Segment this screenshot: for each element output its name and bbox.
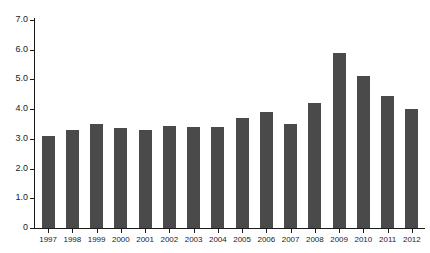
bar[interactable]: [333, 53, 346, 228]
x-tick-mark: [315, 229, 316, 233]
y-tick-mark: [30, 139, 35, 140]
x-tick-label: 2011: [376, 236, 400, 244]
y-tick-mark: [30, 198, 35, 199]
x-tick-label: 2012: [400, 236, 424, 244]
y-tick-label: 6.0: [2, 45, 28, 54]
x-tick-label: 2001: [133, 236, 157, 244]
x-tick-mark: [242, 229, 243, 233]
x-tick-mark: [218, 229, 219, 233]
x-tick-label: 2008: [303, 236, 327, 244]
bar[interactable]: [381, 96, 394, 228]
bar[interactable]: [405, 109, 418, 228]
x-tick-label: 1997: [36, 236, 60, 244]
x-tick-mark: [97, 229, 98, 233]
x-tick-mark: [72, 229, 73, 233]
y-tick-mark: [30, 169, 35, 170]
x-tick-label: 2002: [157, 236, 181, 244]
x-tick-label: 2003: [182, 236, 206, 244]
x-tick-mark: [266, 229, 267, 233]
x-axis-line: [34, 228, 425, 229]
bar[interactable]: [308, 103, 321, 228]
x-tick-mark: [412, 229, 413, 233]
bar[interactable]: [90, 124, 103, 228]
bar[interactable]: [211, 127, 224, 228]
x-tick-mark: [291, 229, 292, 233]
y-tick-label: 7.0: [2, 15, 28, 24]
x-tick-mark: [363, 229, 364, 233]
y-tick-mark: [30, 228, 35, 229]
x-tick-mark: [169, 229, 170, 233]
x-tick-label: 2000: [109, 236, 133, 244]
bar[interactable]: [42, 136, 55, 228]
bar[interactable]: [236, 118, 249, 228]
y-tick-mark: [30, 50, 35, 51]
y-tick-mark: [30, 109, 35, 110]
bar[interactable]: [139, 130, 152, 228]
y-tick-mark: [30, 20, 35, 21]
x-tick-label: 2010: [351, 236, 375, 244]
x-tick-label: 2009: [327, 236, 351, 244]
x-tick-label: 1999: [85, 236, 109, 244]
bar[interactable]: [260, 112, 273, 228]
bar-chart: 01.02.03.04.05.06.07.0 19971998199920002…: [0, 0, 430, 253]
y-tick-label: 3.0: [2, 134, 28, 143]
x-tick-mark: [48, 229, 49, 233]
y-tick-label: 2.0: [2, 164, 28, 173]
x-tick-mark: [121, 229, 122, 233]
x-tick-mark: [194, 229, 195, 233]
x-tick-label: 1998: [60, 236, 84, 244]
bar[interactable]: [163, 126, 176, 229]
y-tick-label: 1.0: [2, 193, 28, 202]
x-tick-label: 2007: [279, 236, 303, 244]
bar[interactable]: [284, 124, 297, 228]
x-tick-label: 2004: [206, 236, 230, 244]
x-tick-mark: [388, 229, 389, 233]
y-tick-label: 4.0: [2, 104, 28, 113]
y-tick-label: 0: [2, 223, 28, 232]
x-tick-mark: [145, 229, 146, 233]
y-tick-label: 5.0: [2, 74, 28, 83]
x-tick-label: 2005: [230, 236, 254, 244]
x-tick-mark: [339, 229, 340, 233]
x-tick-label: 2006: [254, 236, 278, 244]
y-tick-mark: [30, 79, 35, 80]
bar[interactable]: [114, 128, 127, 228]
bar[interactable]: [66, 130, 79, 228]
bar[interactable]: [187, 127, 200, 228]
bar[interactable]: [357, 76, 370, 228]
